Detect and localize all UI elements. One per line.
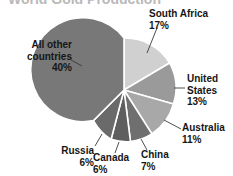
pie-label-south-africa-pct: 17%	[149, 20, 208, 32]
chart-screenshot: World Gold Production South Africa 17% U…	[0, 0, 233, 175]
pie-label-all-other-countries: All other countries 40%	[6, 39, 72, 74]
pie-label-united-states-pct: 13%	[187, 96, 218, 108]
pie-label-china-pct: 7%	[141, 161, 169, 173]
pie-label-canada: Canada 6%	[93, 152, 129, 175]
pie-label-united-states-name-line1: United	[187, 73, 218, 84]
leader-line-australia	[164, 120, 181, 129]
pie-label-china-name: China	[141, 149, 169, 160]
pie-label-united-states-name-line2: States	[187, 85, 218, 97]
pie-label-all-other-countries-name-line1: All other	[31, 39, 72, 50]
pie-label-united-states: United States 13%	[187, 73, 218, 108]
pie-label-australia-pct: 11%	[182, 134, 225, 146]
pie-label-china: China 7%	[141, 149, 169, 172]
pie-label-south-africa-name: South Africa	[149, 8, 208, 19]
pie-label-australia: Australia 11%	[182, 122, 225, 145]
pie-label-all-other-countries-name-line2: countries	[6, 51, 72, 63]
pie-label-russia-pct: 6%	[48, 157, 94, 169]
pie-label-all-other-countries-pct: 40%	[6, 62, 72, 74]
leader-line-russia	[95, 134, 102, 146]
pie-label-russia-name: Russia	[61, 145, 94, 156]
pie-label-south-africa: South Africa 17%	[149, 8, 208, 31]
pie-label-russia: Russia 6%	[48, 145, 94, 168]
pie-label-canada-name: Canada	[93, 152, 129, 163]
pie-label-canada-pct: 6%	[93, 164, 129, 176]
pie-label-australia-name: Australia	[182, 122, 225, 133]
